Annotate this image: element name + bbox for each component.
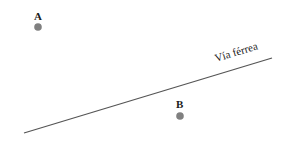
point-a-label: A <box>34 10 42 22</box>
railway-label: Vía férrea <box>213 40 259 64</box>
railway-line <box>24 58 272 133</box>
point-b-label: B <box>176 98 184 110</box>
point-a-marker <box>34 23 42 31</box>
diagram-canvas: Vía férrea A B <box>0 0 288 148</box>
diagram-svg: Vía férrea A B <box>0 0 288 148</box>
point-b-marker <box>176 112 184 120</box>
